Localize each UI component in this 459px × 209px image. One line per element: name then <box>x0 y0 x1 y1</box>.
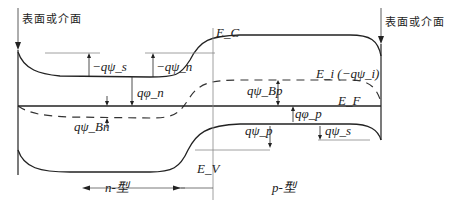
q-phi-p-label: qφ_p <box>295 107 322 120</box>
q-psi-n-label: −qψ_n <box>156 60 192 73</box>
right-surface-label: 表面或介面 <box>385 17 445 28</box>
q-psi-s-right-label: qψ_s <box>325 124 351 137</box>
fermi-level-label: E_F <box>338 94 360 107</box>
q-psi-s-left-label: −qψ_s <box>92 60 127 73</box>
q-phi-n-label: qφ_n <box>137 86 164 99</box>
q-psi-p-label: qψ_p <box>245 124 273 137</box>
conduction-band-label: E_C <box>216 26 239 39</box>
n-type-label: n-型 <box>105 181 129 194</box>
q-psi-Bn-label: qψ_Bn <box>74 120 110 133</box>
valence-band-label: E_V <box>197 162 219 175</box>
intrinsic-level-curve <box>18 80 381 118</box>
left-surface-label: 表面或介面 <box>22 14 82 25</box>
q-psi-Bp-label: qψ_Bp <box>247 84 283 97</box>
intrinsic-level-label: E_i (−qψ_i) <box>316 67 379 80</box>
p-type-label: p-型 <box>272 181 296 194</box>
